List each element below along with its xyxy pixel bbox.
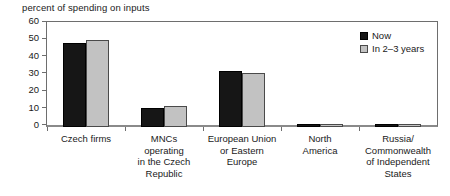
x-axis-label: MNCsoperatingin the CzechRepublic [125, 133, 203, 179]
y-tick-50: 50 [28, 32, 46, 44]
legend-swatch-now-icon [360, 32, 368, 40]
x-tick-mark [203, 127, 204, 131]
x-axis-label-line: Czech firms [47, 133, 125, 145]
chart-container: percent of spending on inputs 60 50 40 3… [0, 0, 450, 196]
y-tick-40: 40 [28, 50, 46, 62]
x-axis-label-line: Commonwealth [359, 145, 437, 157]
y-tick-30: 30 [28, 67, 46, 79]
legend: Now In 2–3 years [360, 30, 424, 54]
x-axis-label: Russia/Commonwealthof IndependentStates [359, 133, 437, 179]
legend-label: In 2–3 years [372, 43, 424, 54]
x-axis-labels: Czech firmsMNCsoperatingin the CzechRepu… [47, 133, 437, 193]
y-tick-label: 40 [28, 50, 39, 62]
x-axis-label: European Unionor EasternEurope [203, 133, 281, 168]
x-axis-ticks [47, 127, 437, 132]
y-axis: 60 50 40 30 20 10 0 [0, 21, 46, 127]
y-tick-60: 60 [28, 15, 46, 27]
legend-label: Now [372, 30, 391, 41]
x-axis-label-line: or Eastern [203, 145, 281, 157]
x-tick-mark [281, 127, 282, 131]
x-axis-label-line: North [281, 133, 359, 145]
y-tick-label: 0 [34, 119, 39, 131]
y-tick-label: 50 [28, 32, 39, 44]
y-tick-label: 20 [28, 84, 39, 96]
legend-swatch-future-icon [360, 45, 368, 53]
y-tick-label: 60 [28, 15, 39, 27]
x-axis-label-line: of Independent [359, 156, 437, 168]
chart-title: percent of spending on inputs [22, 2, 150, 14]
x-axis-label-line: Republic [125, 168, 203, 180]
x-axis-label-line: operating [125, 145, 203, 157]
legend-item-future[interactable]: In 2–3 years [360, 43, 424, 54]
x-axis-label-line: Europe [203, 156, 281, 168]
x-axis-label: NorthAmerica [281, 133, 359, 156]
y-tick-label: 10 [28, 102, 39, 114]
x-tick-mark [125, 127, 126, 131]
legend-item-now[interactable]: Now [360, 30, 424, 41]
x-axis-label-line: America [281, 145, 359, 157]
y-tick-20: 20 [28, 84, 46, 96]
y-tick-0: 0 [34, 119, 46, 131]
x-axis-label-line: Russia/ [359, 133, 437, 145]
x-tick-mark [47, 127, 48, 131]
y-tick-10: 10 [28, 102, 46, 114]
x-axis-label-line: MNCs [125, 133, 203, 145]
x-axis-label: Czech firms [47, 133, 125, 145]
y-tick-label: 30 [28, 67, 39, 79]
x-axis-label-line: in the Czech [125, 156, 203, 168]
x-axis-label-line: States [359, 168, 437, 180]
x-axis-label-line: European Union [203, 133, 281, 145]
x-tick-mark [359, 127, 360, 131]
